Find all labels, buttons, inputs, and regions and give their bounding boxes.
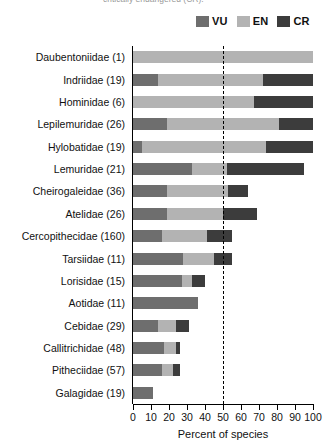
x-tick-label: 100 xyxy=(298,411,328,424)
bar-segment-vu xyxy=(133,163,192,175)
x-tick xyxy=(313,404,314,410)
bar-segment-cr xyxy=(192,275,205,287)
legend-label: VU xyxy=(212,16,228,27)
bar-segment-en xyxy=(133,96,254,108)
x-tick xyxy=(259,404,260,410)
bar-segment-cr xyxy=(266,141,313,153)
stacked-bar-chart: critically endangered (CR). VUENCR Daube… xyxy=(0,0,329,446)
category-label: Indriidae (19) xyxy=(0,74,129,86)
category-label: Cheirogaleidae (36) xyxy=(0,185,129,197)
figure-caption-text: critically endangered (CR). xyxy=(103,0,204,4)
plot-area xyxy=(133,46,313,404)
x-tick xyxy=(295,404,296,410)
x-axis-title: Percent of species xyxy=(133,427,313,441)
bar-segment-vu xyxy=(133,230,162,242)
bar-segment-en xyxy=(158,74,262,86)
category-label: Hylobatidae (19) xyxy=(0,141,129,153)
bar-segment-en xyxy=(167,185,228,197)
x-tick xyxy=(169,404,170,410)
legend-swatch-vu-icon xyxy=(196,16,209,27)
bar-segment-cr xyxy=(227,163,304,175)
x-tick xyxy=(277,404,278,410)
bar-segment-en xyxy=(192,163,226,175)
legend-item-cr: CR xyxy=(277,16,309,27)
bar-segment-cr xyxy=(228,185,248,197)
bar-segment-vu xyxy=(133,297,198,309)
x-tick xyxy=(205,404,206,410)
legend-label: EN xyxy=(253,16,269,27)
bar-segment-en xyxy=(158,320,176,332)
bar-segment-cr xyxy=(173,364,180,376)
reference-line-50 xyxy=(223,46,224,404)
bar-segment-cr xyxy=(176,342,180,354)
bar-segment-cr xyxy=(207,230,232,242)
category-label: Lorisidae (15) xyxy=(0,275,129,287)
bar-segment-cr xyxy=(176,320,189,332)
x-axis-tick-labels: 0102030405060708090100 xyxy=(113,411,329,425)
category-label: Hominidae (6) xyxy=(0,96,129,108)
bar-segment-vu xyxy=(133,118,167,130)
bar-segment-en xyxy=(162,364,173,376)
bar-segment-cr xyxy=(223,208,257,220)
bar-segment-vu xyxy=(133,74,158,86)
legend-swatch-en-icon xyxy=(237,16,250,27)
legend-item-en: EN xyxy=(237,16,269,27)
bar-segment-vu xyxy=(133,141,142,153)
legend-item-vu: VU xyxy=(196,16,228,27)
bar-segment-en xyxy=(164,342,177,354)
x-tick xyxy=(133,404,134,410)
category-label: Cercopithecidae (160) xyxy=(0,230,129,242)
x-tick xyxy=(151,404,152,410)
category-label: Atelidae (26) xyxy=(0,208,129,220)
bar-segment-cr xyxy=(279,118,313,130)
category-label: Pitheciidae (57) xyxy=(0,364,129,376)
category-label: Daubentoniidae (1) xyxy=(0,51,129,63)
x-tick xyxy=(241,404,242,410)
bar-segment-vu xyxy=(133,342,164,354)
category-label: Galagidae (19) xyxy=(0,387,129,399)
bar-segment-vu xyxy=(133,387,153,399)
bar-segment-cr xyxy=(263,74,313,86)
bar-segment-vu xyxy=(133,320,158,332)
figure-caption: critically endangered (CR). xyxy=(0,0,329,9)
bar-segment-vu xyxy=(133,275,182,287)
legend: VUENCR xyxy=(196,14,310,28)
category-axis-labels: Daubentoniidae (1)Indriidae (19)Hominida… xyxy=(0,46,129,404)
bar-segment-en xyxy=(167,208,223,220)
bar-segment-vu xyxy=(133,364,162,376)
bar-segment-en xyxy=(162,230,207,242)
category-label: Lepilemuridae (26) xyxy=(0,118,129,130)
x-tick xyxy=(187,404,188,410)
legend-label: CR xyxy=(293,16,309,27)
category-label: Aotidae (11) xyxy=(0,297,129,309)
category-label: Cebidae (29) xyxy=(0,320,129,332)
bar-segment-vu xyxy=(133,208,167,220)
category-label: Lemuridae (21) xyxy=(0,163,129,175)
bar-segment-en xyxy=(142,141,266,153)
bar-segment-cr xyxy=(254,96,313,108)
bar-segment-vu xyxy=(133,185,167,197)
category-label: Tarsiidae (11) xyxy=(0,253,129,265)
bar-segment-en xyxy=(182,275,193,287)
bar-segment-en xyxy=(183,253,214,265)
x-tick xyxy=(223,404,224,410)
legend-swatch-cr-icon xyxy=(277,16,290,27)
category-label: Callitrichidae (48) xyxy=(0,342,129,354)
bar-segment-vu xyxy=(133,253,183,265)
